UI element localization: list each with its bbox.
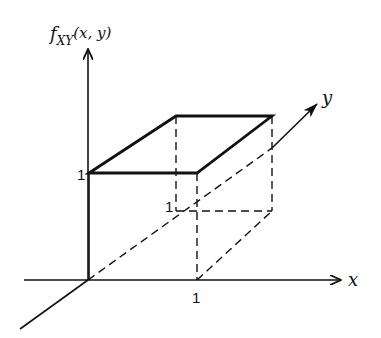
joint-pdf-diagram: fXY(x, y) x y 1 1 1 (0, 0, 381, 338)
z-tick-1: 1 (77, 166, 85, 183)
y-axis-front (20, 280, 88, 329)
top-face (89, 116, 272, 173)
x-tick-1: 1 (192, 289, 200, 306)
diagram-svg: fXY(x, y) x y 1 1 1 (0, 0, 381, 338)
y-tick-1: 1 (165, 198, 173, 215)
x-axis-label: x (348, 269, 358, 290)
y-axis-back (272, 104, 317, 148)
y-axis-hidden (88, 148, 272, 280)
z-axis-label: fXY(x, y) (48, 23, 111, 48)
bottom-right-edge (197, 211, 272, 280)
y-axis-label: y (321, 87, 333, 108)
